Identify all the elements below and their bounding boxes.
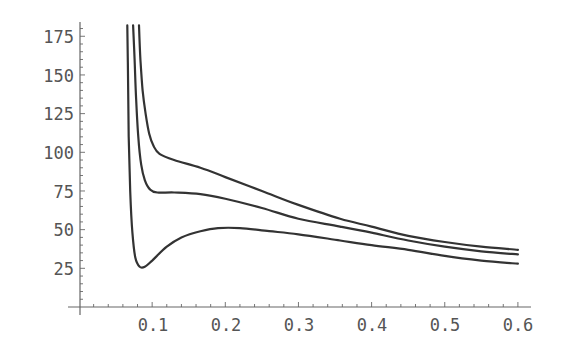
line-chart: 0.1 0.2 0.3 0.4 0.5 0.6 25 50 75 100 125… [0,0,566,354]
x-tick-label: 0.5 [430,315,461,335]
series-lower-curve [127,25,518,267]
data-series [127,25,518,267]
y-tick-label: 50 [54,220,74,240]
x-tick-label: 0.2 [211,315,242,335]
x-tick-label: 0.6 [503,315,534,335]
y-tick-labels: 25 50 75 100 125 150 175 [43,27,74,279]
y-tick-label: 25 [54,259,74,279]
x-tick-labels: 0.1 0.2 0.3 0.4 0.5 0.6 [138,315,534,335]
y-tick-label: 150 [43,66,74,86]
series-middle-curve [133,25,518,254]
y-tick-label: 75 [54,182,74,202]
series-upper-curve [139,25,518,249]
x-tick-label: 0.3 [284,315,315,335]
y-tick-label: 125 [43,104,74,124]
y-tick-label: 100 [43,143,74,163]
y-tick-label: 175 [43,27,74,47]
x-tick-label: 0.4 [357,315,388,335]
x-tick-label: 0.1 [138,315,169,335]
